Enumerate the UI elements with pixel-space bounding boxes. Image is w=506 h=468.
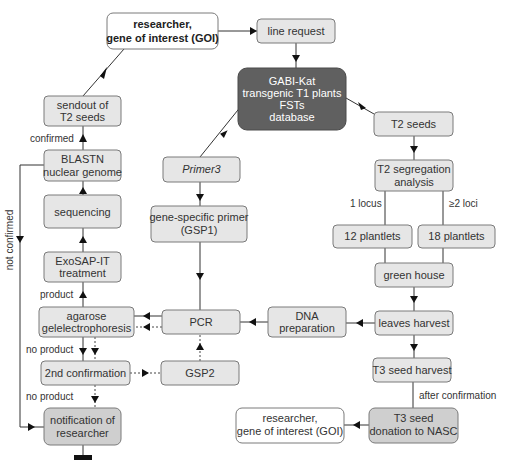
svg-text:nuclear genome: nuclear genome bbox=[43, 166, 122, 178]
node-green-house: green house bbox=[375, 263, 453, 287]
svg-text:agarose: agarose bbox=[67, 310, 107, 322]
arrow-head bbox=[143, 323, 150, 331]
svg-text:T2 seeds: T2 seeds bbox=[60, 111, 106, 123]
node-2nd-confirmation: 2nd confirmation bbox=[41, 361, 130, 385]
arrow-head bbox=[196, 273, 204, 280]
node-t3-donation: T3 seed donation to NASC bbox=[369, 408, 458, 443]
node-notification: notification of researcher bbox=[44, 408, 121, 445]
label-product: product bbox=[40, 289, 74, 300]
svg-text:18 plantlets: 18 plantlets bbox=[428, 230, 485, 242]
node-12-plantlets: 12 plantlets bbox=[333, 225, 412, 248]
svg-text:DNA: DNA bbox=[295, 310, 319, 322]
node-agarose: agarose gelelectrophoresis bbox=[39, 307, 134, 337]
svg-text:line request: line request bbox=[268, 25, 325, 37]
node-gsp1: gene-specific primer (GSP1) bbox=[149, 206, 248, 242]
node-t2-segregation: T2 segregation analysis bbox=[375, 160, 453, 191]
svg-text:ExoSAP-IT: ExoSAP-IT bbox=[55, 255, 110, 267]
arrow-head bbox=[356, 319, 363, 327]
terminal-end-marker bbox=[74, 455, 92, 460]
arrow-head bbox=[91, 396, 99, 403]
svg-text:sendout of: sendout of bbox=[57, 99, 109, 111]
svg-text:T3 seed harvest: T3 seed harvest bbox=[373, 364, 452, 376]
svg-text:12 plantlets: 12 plantlets bbox=[344, 230, 401, 242]
label-not-confirmed: not confirmed bbox=[4, 210, 15, 271]
arrow-head bbox=[100, 67, 107, 79]
node-line-request: line request bbox=[257, 19, 335, 43]
svg-text:GABI-Kat: GABI-Kat bbox=[269, 75, 315, 87]
svg-text:PCR: PCR bbox=[189, 316, 212, 328]
svg-text:GSP2: GSP2 bbox=[185, 367, 214, 379]
node-gabikat-database: GABI-Kat transgenic T1 plants FSTs datab… bbox=[238, 68, 346, 130]
label-no-product-2: no product bbox=[26, 391, 73, 402]
node-t2-seeds: T2 seeds bbox=[374, 112, 453, 136]
label-one-locus: 1 locus bbox=[350, 198, 382, 209]
svg-text:(GSP1): (GSP1) bbox=[181, 224, 218, 236]
arrow-head bbox=[353, 421, 360, 429]
node-dna-preparation: DNA preparation bbox=[268, 307, 346, 337]
workflow-diagram: confirmed not confirmed product no produ… bbox=[0, 0, 506, 468]
node-leaves-harvest: leaves harvest bbox=[375, 311, 453, 335]
arrow-head bbox=[79, 348, 87, 355]
svg-text:leaves harvest: leaves harvest bbox=[379, 317, 450, 329]
arrow-head bbox=[79, 236, 87, 243]
svg-text:transgenic T1 plants: transgenic T1 plants bbox=[243, 87, 342, 99]
arrow-head bbox=[142, 369, 149, 377]
node-exosap: ExoSAP-IT treatment bbox=[44, 252, 121, 282]
svg-text:T3 seed: T3 seed bbox=[394, 412, 434, 424]
label-confirmed: confirmed bbox=[30, 133, 74, 144]
arrow-head bbox=[250, 27, 257, 35]
svg-text:treatment: treatment bbox=[59, 267, 105, 279]
svg-text:BLASTN: BLASTN bbox=[61, 153, 104, 165]
label-after-confirmation: after confirmation bbox=[419, 390, 496, 401]
arrow-head bbox=[16, 236, 24, 243]
svg-text:researcher,: researcher, bbox=[262, 412, 317, 424]
arrow-head bbox=[143, 312, 150, 320]
svg-text:donation to NASC: donation to NASC bbox=[369, 425, 457, 437]
label-no-product-1: no product bbox=[26, 344, 73, 355]
node-blastn: BLASTN nuclear genome bbox=[43, 150, 122, 181]
node-researcher-top: researcher, gene of interest (GOI) bbox=[106, 13, 219, 49]
svg-text:notification of: notification of bbox=[50, 414, 116, 426]
svg-text:T2 seeds: T2 seeds bbox=[391, 118, 437, 130]
svg-text:gene of interest (GOI): gene of interest (GOI) bbox=[237, 425, 343, 437]
svg-text:database: database bbox=[269, 111, 314, 123]
svg-text:sequencing: sequencing bbox=[54, 206, 110, 218]
arrow-head bbox=[79, 187, 87, 194]
node-sendout: sendout of T2 seeds bbox=[44, 96, 121, 126]
arrow-head bbox=[292, 55, 300, 62]
arrow-head bbox=[410, 344, 418, 351]
node-researcher-bottom: researcher, gene of interest (GOI) bbox=[236, 408, 344, 443]
arrow-head bbox=[196, 194, 204, 201]
svg-text:2nd confirmation: 2nd confirmation bbox=[45, 367, 126, 379]
svg-text:researcher: researcher bbox=[56, 427, 109, 439]
svg-text:gene of interest (GOI): gene of interest (GOI) bbox=[106, 32, 219, 44]
svg-text:T2 segregation: T2 segregation bbox=[377, 163, 450, 175]
node-sequencing: sequencing bbox=[44, 195, 121, 228]
node-primer3: Primer3 bbox=[163, 157, 240, 182]
svg-text:researcher,: researcher, bbox=[133, 18, 192, 30]
arrow-head bbox=[249, 318, 256, 326]
arrow-head bbox=[79, 134, 87, 142]
svg-text:gene-specific primer: gene-specific primer bbox=[149, 211, 248, 223]
arrow-head bbox=[91, 348, 99, 355]
svg-text:preparation: preparation bbox=[279, 322, 335, 334]
svg-text:gelelectrophoresis: gelelectrophoresis bbox=[42, 322, 132, 334]
svg-text:Primer3: Primer3 bbox=[182, 163, 221, 175]
node-18-plantlets: 18 plantlets bbox=[418, 225, 495, 248]
arrow-head bbox=[410, 146, 418, 153]
label-two-loci: ≥2 loci bbox=[449, 198, 478, 209]
arrow-head bbox=[196, 343, 204, 350]
svg-text:analysis: analysis bbox=[394, 176, 434, 188]
svg-text:green house: green house bbox=[383, 269, 444, 281]
node-t3-seed-harvest: T3 seed harvest bbox=[373, 358, 452, 382]
arrow-head bbox=[410, 296, 418, 303]
arrow-head bbox=[79, 291, 87, 298]
node-pcr: PCR bbox=[162, 310, 240, 334]
arrow-head bbox=[28, 423, 35, 431]
svg-text:FSTs: FSTs bbox=[279, 99, 305, 111]
node-gsp2: GSP2 bbox=[161, 361, 239, 385]
